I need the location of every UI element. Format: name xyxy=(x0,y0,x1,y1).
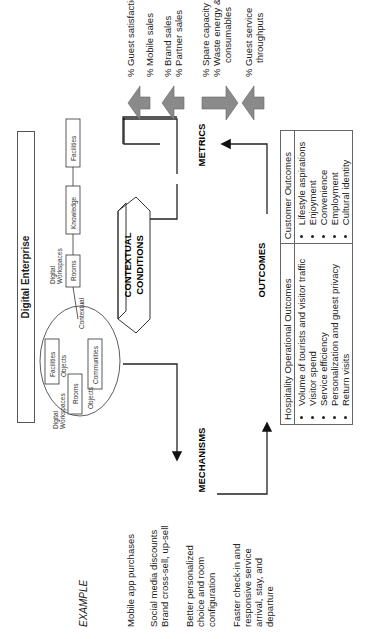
list-item: Visitor spend xyxy=(307,248,318,406)
list-item: Employment xyxy=(329,135,340,225)
metric-line: % Guest satisfaction xyxy=(125,0,136,77)
metric-line: % Brand sales xyxy=(162,10,173,77)
metric-line: consumables xyxy=(222,0,233,77)
outcomes-label: OUTCOMES xyxy=(256,243,267,298)
list-item: Service efficiency xyxy=(318,248,329,406)
metric-line: % Mobile sales xyxy=(144,0,155,77)
facilities-label: Facilities xyxy=(49,351,56,377)
metric-line: % Spare capacity xyxy=(200,0,211,77)
list-item: Return visits xyxy=(340,248,351,406)
facilities-label: Facilities xyxy=(70,135,77,161)
workspaces-label: Workspaces xyxy=(59,393,67,429)
metric-group: % Guest satisfaction % Mobile sales xyxy=(125,0,155,77)
conditions-label: CONDITIONS xyxy=(134,235,145,295)
communities-label: Communities xyxy=(92,345,99,384)
up-arrow-icon xyxy=(162,86,184,120)
knowledge-label: Knowledge xyxy=(70,196,78,229)
table-header: Customer Outcomes xyxy=(281,131,295,244)
rooms-label: Rooms xyxy=(72,383,79,404)
hospitality-cell: Volume of tourists and visitor traffic V… xyxy=(295,244,353,425)
contextual-label: CONTEXTUAL xyxy=(122,232,133,297)
arrow-outcomes-to-metrics xyxy=(223,144,267,214)
contextual-small-label: Contextual xyxy=(78,297,85,329)
rooms-label: Rooms xyxy=(70,260,77,281)
metric-line: % Partner sales xyxy=(173,10,184,77)
arrow-mechanisms-to-outcomes xyxy=(217,424,267,494)
objects-label: Objects xyxy=(60,354,68,377)
metrics-label: METRICS xyxy=(196,124,207,167)
metric-group: % Spare capacity % Waste energy & consum… xyxy=(200,0,233,77)
outcomes-table: Hospitality Operational Outcomes Custome… xyxy=(280,130,353,425)
list-item: Convenience xyxy=(318,135,329,225)
metric-line: % Guest service xyxy=(243,8,254,77)
metric-line: throughputs xyxy=(254,8,265,77)
list-item: Enjoyment xyxy=(307,135,318,225)
arrow-metrics-line xyxy=(123,119,177,174)
list-item: Volume of tourists and visitor traffic xyxy=(296,248,307,406)
mechanisms-label: MECHANISMS xyxy=(196,428,207,493)
arrow-to-mechanisms xyxy=(123,364,177,459)
down-arrow-icon xyxy=(202,86,238,120)
metric-group: % Brand sales % Partner sales xyxy=(162,10,184,77)
objects-label: Objects xyxy=(87,386,95,409)
metric-line: % Waste energy & xyxy=(211,0,222,77)
table-header: Hospitality Operational Outcomes xyxy=(281,244,295,425)
list-item: Cultural identity xyxy=(340,135,351,225)
list-item: Lifestyle aspirations xyxy=(296,135,307,225)
customer-cell: Lifestyle aspirations Enjoyment Convenie… xyxy=(295,131,353,244)
up-arrow-icon xyxy=(242,86,264,120)
workspaces-label: Workspaces xyxy=(56,248,64,284)
metric-group: % Guest service throughputs xyxy=(243,8,265,77)
list-item: Personalization and guest privacy xyxy=(329,248,340,406)
metric-arrows xyxy=(128,86,264,120)
up-arrow-icon xyxy=(128,86,150,120)
diagram-stage: Digital Enterprise EXAMPLE Mobile app pu… xyxy=(0,0,374,639)
